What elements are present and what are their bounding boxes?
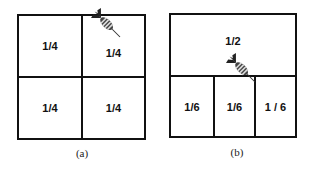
cell-label: 1/2 xyxy=(225,35,240,47)
dart-icon xyxy=(226,52,260,88)
cell-label: 1/4 xyxy=(106,102,121,114)
panel-a-caption: (a) xyxy=(76,147,88,159)
cell-label: 1/4 xyxy=(106,47,121,59)
panel-a-cell-top-left: 1/4 xyxy=(19,16,81,76)
panel-a-board: 1/4 1/4 1/4 1/4 xyxy=(17,14,146,140)
cell-label: 1/4 xyxy=(42,102,57,114)
cell-label: 1/6 xyxy=(184,101,199,113)
panel-b-cell-bottom-right: 1 / 6 xyxy=(256,77,295,136)
panel-b-cell-bottom-left: 1/6 xyxy=(171,77,213,136)
panel-b-caption: (b) xyxy=(231,146,244,158)
cell-label: 1/4 xyxy=(42,40,57,52)
cell-label: 1/6 xyxy=(227,101,242,113)
dart-icon xyxy=(91,7,125,43)
cell-label: 1 / 6 xyxy=(265,101,286,113)
panel-a-cell-bottom-right: 1/4 xyxy=(83,78,144,138)
panel-a-cell-bottom-left: 1/4 xyxy=(19,78,81,138)
